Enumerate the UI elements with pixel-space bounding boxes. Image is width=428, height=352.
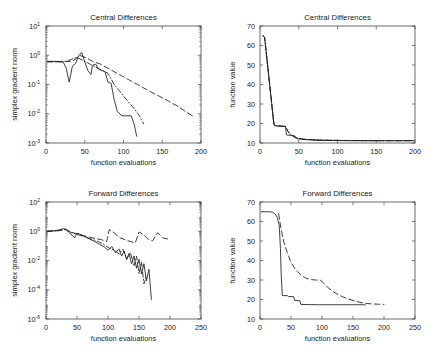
x-tick-label: 0 bbox=[258, 323, 262, 332]
y-tick-label: 70 bbox=[247, 22, 255, 31]
x-axis-label: function evaluations bbox=[91, 158, 157, 167]
x-tick-label: 250 bbox=[409, 323, 421, 332]
y-tick-label: 10-6 bbox=[27, 314, 40, 324]
x-tick-label: 50 bbox=[295, 147, 303, 156]
x-tick-label: 150 bbox=[347, 323, 359, 332]
y-axis-label: function value bbox=[228, 238, 237, 284]
plot-bottom-left: 05010015020025010210010-210-410-6Forward… bbox=[0, 176, 214, 352]
subplot-central-differences-function-value: 05010015020010203040506070Central Differ… bbox=[214, 0, 428, 176]
y-tick-label: 10-3 bbox=[27, 138, 40, 148]
y-tick-label: 40 bbox=[247, 80, 255, 89]
plot-title: Forward Differences bbox=[88, 189, 158, 198]
y-tick-label: 50 bbox=[247, 61, 255, 70]
subplot-central-differences-gradient-norm: 05010015020010110010-110-210-3Central Di… bbox=[0, 0, 214, 176]
x-tick-label: 150 bbox=[370, 147, 382, 156]
y-tick-label: 101 bbox=[29, 21, 40, 31]
x-tick-label: 50 bbox=[287, 323, 295, 332]
x-tick-label: 0 bbox=[44, 147, 48, 156]
x-tick-label: 200 bbox=[195, 147, 207, 156]
y-axis-label: function value bbox=[228, 62, 237, 108]
y-tick-label: 10-4 bbox=[27, 284, 40, 294]
plot-top-left: 05010015020010110010-110-210-3Central Di… bbox=[0, 0, 214, 176]
x-tick-label: 50 bbox=[73, 323, 81, 332]
y-tick-label: 70 bbox=[247, 198, 255, 207]
plot-title: Central Differences bbox=[304, 13, 371, 22]
plot-area bbox=[46, 202, 201, 319]
y-tick-label: 10-2 bbox=[27, 108, 40, 118]
y-tick-label: 102 bbox=[29, 197, 40, 207]
x-tick-label: 150 bbox=[133, 323, 145, 332]
x-tick-label: 0 bbox=[44, 323, 48, 332]
x-tick-label: 50 bbox=[81, 147, 89, 156]
y-tick-label: 10 bbox=[247, 139, 255, 148]
y-axis-label: simplex gradient norm bbox=[10, 224, 19, 297]
plot-area bbox=[46, 26, 201, 143]
plot-bottom-right: 05010015020025010203040506070Forward Dif… bbox=[214, 176, 428, 352]
y-tick-label: 20 bbox=[247, 295, 255, 304]
figure-canvas: 05010015020010110010-110-210-3Central Di… bbox=[0, 0, 428, 352]
x-tick-label: 100 bbox=[102, 323, 114, 332]
y-tick-label: 30 bbox=[247, 276, 255, 285]
x-axis-label: function evaluations bbox=[91, 334, 157, 343]
x-tick-label: 200 bbox=[378, 323, 390, 332]
x-tick-label: 250 bbox=[195, 323, 207, 332]
y-tick-label: 20 bbox=[247, 119, 255, 128]
x-tick-label: 100 bbox=[332, 147, 344, 156]
y-tick-label: 30 bbox=[247, 100, 255, 109]
y-tick-label: 60 bbox=[247, 217, 255, 226]
x-tick-label: 100 bbox=[118, 147, 130, 156]
y-axis-label: simplex gradient norm bbox=[10, 48, 19, 121]
plot-area bbox=[260, 202, 415, 319]
x-tick-label: 150 bbox=[156, 147, 168, 156]
plot-title: Forward Differences bbox=[302, 189, 372, 198]
plot-title: Central Differences bbox=[90, 13, 157, 22]
y-tick-label: 10-2 bbox=[27, 255, 40, 265]
y-tick-label: 100 bbox=[29, 226, 40, 236]
x-axis-label: function evaluations bbox=[305, 334, 371, 343]
y-tick-label: 100 bbox=[29, 50, 40, 60]
x-tick-label: 200 bbox=[409, 147, 421, 156]
x-tick-label: 100 bbox=[316, 323, 328, 332]
y-tick-label: 10 bbox=[247, 315, 255, 324]
y-tick-label: 10-1 bbox=[27, 79, 40, 89]
plot-top-right: 05010015020010203040506070Central Differ… bbox=[214, 0, 428, 176]
y-tick-label: 40 bbox=[247, 256, 255, 265]
x-tick-label: 200 bbox=[164, 323, 176, 332]
y-tick-label: 50 bbox=[247, 237, 255, 246]
subplot-forward-differences-function-value: 05010015020025010203040506070Forward Dif… bbox=[214, 176, 428, 352]
x-tick-label: 0 bbox=[258, 147, 262, 156]
y-tick-label: 60 bbox=[247, 41, 255, 50]
x-axis-label: function evaluations bbox=[305, 158, 371, 167]
plot-area bbox=[260, 26, 415, 143]
subplot-forward-differences-gradient-norm: 05010015020025010210010-210-410-6Forward… bbox=[0, 176, 214, 352]
